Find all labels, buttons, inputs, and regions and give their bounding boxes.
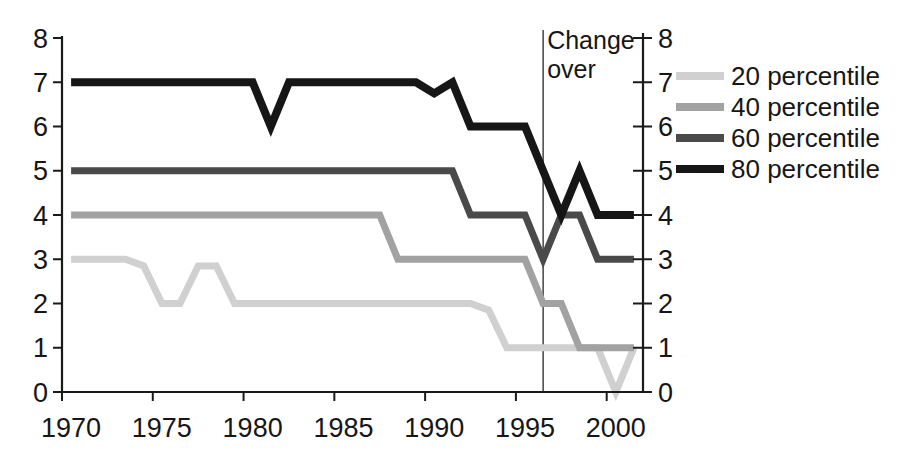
legend-label-80-percentile: 80 percentile bbox=[731, 156, 880, 182]
series-line-20-percentile bbox=[71, 259, 634, 392]
changeover-label-line1: Change bbox=[547, 26, 635, 55]
legend-swatch-20-percentile bbox=[676, 72, 724, 80]
y-tick-label-right: 7 bbox=[658, 68, 673, 98]
y-tick-label-left: 8 bbox=[33, 24, 48, 54]
y-tick-label-right: 1 bbox=[658, 333, 673, 363]
legend: 20 percentile 40 percentile 60 percentil… bbox=[676, 60, 880, 184]
series-line-80-percentile bbox=[71, 82, 634, 215]
legend-label-40-percentile: 40 percentile bbox=[731, 94, 880, 120]
y-tick-label-left: 6 bbox=[33, 112, 48, 142]
x-tick-label: 1980 bbox=[223, 413, 283, 443]
y-tick-label-right: 0 bbox=[658, 378, 673, 408]
legend-swatch-40-percentile bbox=[676, 103, 724, 111]
changeover-label-line2: over bbox=[547, 55, 635, 84]
y-tick-label-right: 8 bbox=[658, 24, 673, 54]
changeover-label: Change over bbox=[547, 26, 635, 84]
legend-label-60-percentile: 60 percentile bbox=[731, 125, 880, 151]
x-tick-label: 1995 bbox=[495, 413, 555, 443]
x-tick-label: 2000 bbox=[586, 413, 646, 443]
y-tick-label-left: 3 bbox=[33, 245, 48, 275]
y-tick-label-left: 2 bbox=[33, 289, 48, 319]
legend-item-80-percentile: 80 percentile bbox=[676, 153, 880, 184]
x-tick-label: 1975 bbox=[132, 413, 192, 443]
legend-item-60-percentile: 60 percentile bbox=[676, 122, 880, 153]
x-tick-label: 1990 bbox=[404, 413, 464, 443]
legend-label-20-percentile: 20 percentile bbox=[731, 63, 880, 89]
legend-swatch-60-percentile bbox=[676, 134, 724, 142]
y-tick-label-right: 6 bbox=[658, 112, 673, 142]
y-tick-label-left: 1 bbox=[33, 333, 48, 363]
y-tick-label-right: 3 bbox=[658, 245, 673, 275]
legend-item-40-percentile: 40 percentile bbox=[676, 91, 880, 122]
y-tick-label-left: 0 bbox=[33, 378, 48, 408]
y-tick-label-left: 7 bbox=[33, 68, 48, 98]
x-tick-label: 1985 bbox=[313, 413, 373, 443]
y-tick-label-left: 4 bbox=[33, 201, 48, 231]
y-tick-label-right: 2 bbox=[658, 289, 673, 319]
y-tick-label-left: 5 bbox=[33, 156, 48, 186]
y-tick-label-right: 5 bbox=[658, 156, 673, 186]
legend-item-20-percentile: 20 percentile bbox=[676, 60, 880, 91]
y-tick-label-right: 4 bbox=[658, 201, 673, 231]
legend-swatch-80-percentile bbox=[676, 165, 724, 173]
percentile-line-chart-figure: 0011223344556677881970197519801985199019… bbox=[0, 0, 903, 458]
x-tick-label: 1970 bbox=[41, 413, 101, 443]
